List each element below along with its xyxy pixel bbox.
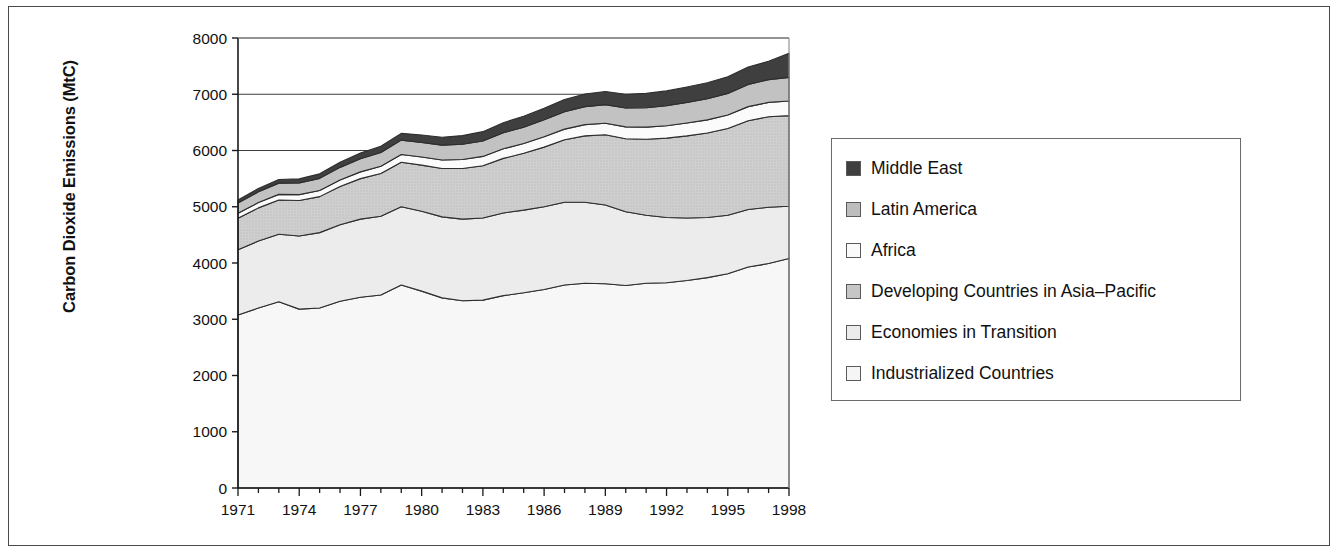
svg-text:3000: 3000 <box>193 311 228 328</box>
svg-text:1995: 1995 <box>711 501 745 518</box>
svg-text:1974: 1974 <box>282 501 317 518</box>
legend-swatch-economies-in-transition <box>846 325 861 340</box>
chart-legend: Middle East Latin America Africa Develop… <box>831 138 1241 401</box>
legend-swatch-africa <box>846 243 861 258</box>
legend-label: Industrialized Countries <box>871 363 1054 384</box>
legend-item[interactable]: Africa <box>846 230 1240 271</box>
legend-swatch-latin-america <box>846 202 861 217</box>
y-axis-ticks: 010002000300040005000600070008000 <box>193 30 238 497</box>
svg-text:7000: 7000 <box>193 86 228 103</box>
legend-swatch-industrialized-countries <box>846 366 861 381</box>
svg-text:1971: 1971 <box>221 501 255 518</box>
legend-item[interactable]: Latin America <box>846 189 1240 230</box>
x-axis-ticks: 1971197419771980198319861989199219951998 <box>221 488 806 518</box>
svg-text:8000: 8000 <box>193 30 228 47</box>
svg-text:1983: 1983 <box>466 501 500 518</box>
svg-text:1980: 1980 <box>404 501 439 518</box>
legend-item[interactable]: Middle East <box>846 148 1240 189</box>
legend-swatch-asia-pacific <box>846 284 861 299</box>
svg-text:1998: 1998 <box>772 501 806 518</box>
y-axis-title: Carbon Dioxide Emissions (MtC) <box>60 37 79 337</box>
legend-label: Latin America <box>871 199 977 220</box>
legend-item[interactable]: Economies in Transition <box>846 312 1240 353</box>
legend-item[interactable]: Industrialized Countries <box>846 353 1240 394</box>
legend-label: Developing Countries in Asia–Pacific <box>871 281 1156 302</box>
legend-item[interactable]: Developing Countries in Asia–Pacific <box>846 271 1240 312</box>
svg-text:0: 0 <box>218 480 227 497</box>
legend-label: Africa <box>871 240 916 261</box>
figure-frame: 010002000300040005000600070008000 197119… <box>8 6 1330 546</box>
svg-text:1000: 1000 <box>193 423 228 440</box>
svg-text:1977: 1977 <box>343 501 377 518</box>
svg-text:1989: 1989 <box>588 501 622 518</box>
legend-label: Middle East <box>871 158 962 179</box>
legend-swatch-middle-east <box>846 161 861 176</box>
svg-text:6000: 6000 <box>193 142 228 159</box>
svg-text:2000: 2000 <box>193 367 228 384</box>
svg-text:5000: 5000 <box>193 198 228 215</box>
svg-text:4000: 4000 <box>193 255 228 272</box>
svg-text:1992: 1992 <box>649 501 683 518</box>
svg-text:1986: 1986 <box>527 501 561 518</box>
legend-label: Economies in Transition <box>871 322 1057 343</box>
